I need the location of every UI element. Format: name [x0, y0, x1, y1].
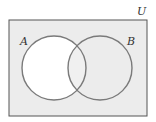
set-a-label: A — [19, 35, 28, 48]
universe-label: U — [137, 5, 147, 18]
venn-diagram: U A B — [0, 0, 156, 122]
set-b-label: B — [126, 35, 135, 48]
